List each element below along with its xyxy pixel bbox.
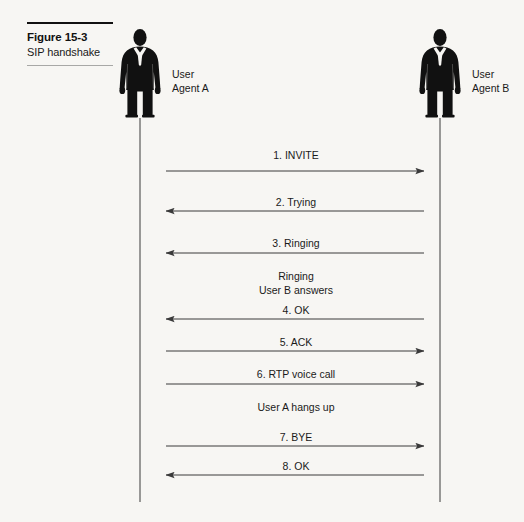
message-label-2: 2. Trying bbox=[276, 196, 316, 210]
message-label-5: 5. ACK bbox=[280, 336, 313, 350]
actor-b-label: User Agent B bbox=[472, 68, 509, 95]
actor-b-label-line1: User bbox=[472, 68, 494, 80]
caption-rule-bottom bbox=[27, 65, 113, 66]
figure-caption-block: Figure 15-3 SIP handshake bbox=[27, 22, 113, 66]
actor-a-label-line1: User bbox=[172, 68, 194, 80]
note-ringing-line1: Ringing bbox=[278, 270, 314, 282]
message-label-7: 7. BYE bbox=[280, 431, 313, 445]
note-ringing-line2: User B answers bbox=[259, 284, 333, 296]
businessman-silhouette-icon bbox=[414, 28, 466, 118]
message-label-1: 1. INVITE bbox=[273, 149, 319, 163]
sip-handshake-figure: Figure 15-3 SIP handshake User Agent A bbox=[0, 0, 524, 522]
message-label-6: 6. RTP voice call bbox=[257, 368, 335, 382]
actor-b-label-line2: Agent B bbox=[472, 82, 509, 94]
figure-title: SIP handshake bbox=[27, 45, 113, 60]
message-arrows-group bbox=[166, 171, 424, 475]
figure-number: Figure 15-3 bbox=[27, 30, 113, 45]
note-hangs-up: User A hangs up bbox=[257, 400, 334, 414]
actor-a-label: User Agent A bbox=[172, 68, 209, 95]
businessman-silhouette-icon bbox=[114, 28, 166, 118]
message-label-3: 3. Ringing bbox=[272, 237, 319, 251]
message-label-8: 8. OK bbox=[283, 460, 310, 474]
message-label-4: 4. OK bbox=[283, 304, 310, 318]
note-ringing: RingingUser B answers bbox=[259, 269, 333, 297]
caption-rule-top bbox=[27, 22, 113, 24]
actor-a-label-line2: Agent A bbox=[172, 82, 209, 94]
